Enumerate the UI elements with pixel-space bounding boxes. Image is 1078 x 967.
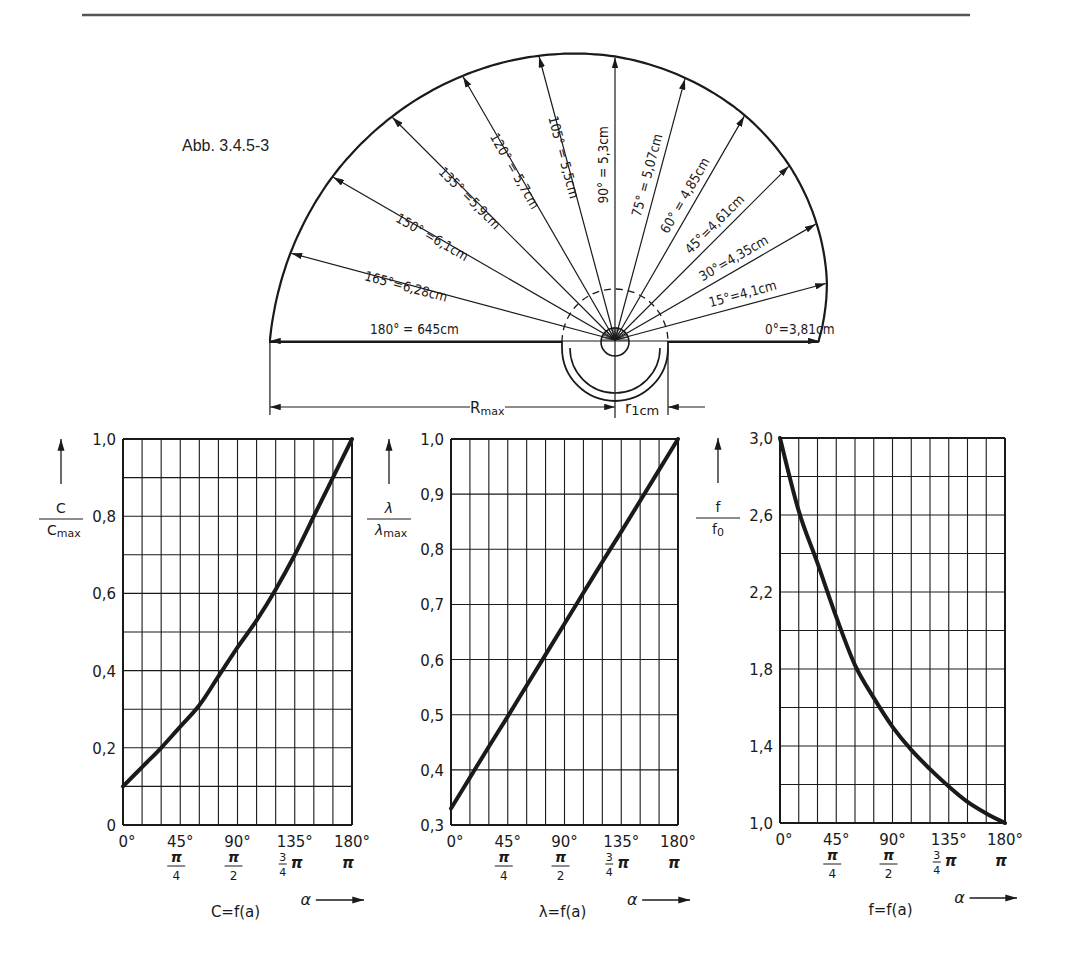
y-tick-label: 1,8 [749, 661, 773, 679]
y-tick-label: 0 [106, 817, 116, 835]
y-tick-label: 0,2 [92, 740, 116, 758]
svg-text:3: 3 [933, 849, 940, 862]
ray-label-135: 135° =5,9cm [436, 163, 505, 232]
y-axis-label-denominator: λmax [374, 522, 408, 540]
svg-text:3: 3 [606, 851, 613, 864]
chart-function-label: λ=f(a) [539, 903, 587, 921]
y-tick-label: 0,5 [420, 707, 444, 725]
ray-label-15: 15°=4,1cm [707, 277, 778, 310]
r1-dimension-label: r1cm [625, 399, 659, 418]
ray-label-75: 75° = 5,07cm [628, 132, 665, 218]
variable-capacitor-rotor-plate-diagram: 0°=3,81cm15°=4,1cm30°=4,35cm45°=4,61cm60… [270, 54, 835, 418]
x-axis-label-alpha: α [954, 888, 965, 907]
x-tick-label-rad: π [945, 852, 957, 870]
chart-function-label: C=f(a) [211, 903, 260, 921]
y-tick-label: 0,4 [420, 762, 444, 780]
svg-text:2: 2 [885, 867, 893, 881]
x-tick-label-deg: 0° [446, 833, 463, 851]
x-tick-label-deg: 0° [775, 831, 792, 849]
y-axis-label-denominator: Cmax [47, 522, 81, 540]
y-tick-label: 0,8 [420, 541, 444, 559]
x-tick-label-rad: π [668, 854, 680, 872]
y-axis-label-denominator: f0 [712, 521, 724, 539]
y-tick-label: 0,4 [92, 663, 116, 681]
ray-label-120: 120° = 5,7cm [487, 130, 543, 212]
x-axis-label-alpha: α [301, 890, 312, 909]
y-axis-label-numerator: λ [384, 500, 393, 516]
y-tick-label: 1,0 [420, 431, 444, 449]
chart-frequency-vs-angle: 1,01,41,82,22,63,00°45°90°135°180°π4π234… [696, 430, 1023, 919]
y-tick-label: 3,0 [749, 430, 773, 448]
svg-text:4: 4 [606, 866, 613, 879]
svg-text:4: 4 [828, 867, 836, 881]
y-tick-label: 1,0 [92, 431, 116, 449]
y-tick-label: 2,2 [749, 584, 773, 602]
figure-caption: Abb. 3.4.5-3 [182, 137, 269, 155]
x-tick-label-deg: 180° [987, 831, 1023, 849]
ray-label-180: 180° = 645cm [370, 321, 459, 337]
x-tick-label-rad: π [827, 847, 839, 863]
x-tick-label-deg: 180° [660, 833, 696, 851]
x-tick-label-rad: π [995, 852, 1007, 870]
x-tick-label-rad: π [342, 854, 354, 872]
svg-text:4: 4 [500, 869, 508, 883]
y-tick-label: 0,7 [420, 596, 444, 614]
ray-label-105: 105° = 5,5cm [545, 114, 582, 200]
y-tick-label: 0,3 [420, 817, 444, 835]
y-tick-label: 0,8 [92, 508, 116, 526]
ray-label-150: 150° =6,1cm [393, 210, 471, 264]
x-tick-label-rad: π [617, 854, 629, 872]
x-axis-label-alpha: α [627, 890, 638, 909]
svg-text:4: 4 [279, 866, 286, 879]
x-tick-label-rad: π [228, 849, 240, 865]
y-axis-label-numerator: f [716, 499, 722, 515]
x-tick-label-deg: 180° [334, 833, 370, 851]
x-tick-label-deg: 0° [118, 833, 135, 851]
x-tick-label-deg: 135° [603, 833, 639, 851]
y-tick-label: 1,0 [749, 815, 773, 833]
x-tick-label-rad: π [498, 849, 510, 865]
x-tick-label-rad: π [555, 849, 567, 865]
ray-label-165: 165°=6,28cm [363, 267, 449, 304]
rmax-dimension-label: Rmax [470, 399, 505, 418]
chart-wavelength-vs-angle: 0,30,40,50,60,70,80,91,00°45°90°135°180°… [367, 431, 696, 921]
svg-text:3: 3 [279, 851, 286, 864]
x-tick-label-rad: π [883, 847, 895, 863]
chart-function-label: f=f(a) [868, 901, 912, 919]
y-axis-label-numerator: C [56, 500, 66, 516]
y-tick-label: 2,6 [749, 507, 773, 525]
ray-label-0: 0°=3,81cm [765, 321, 835, 337]
x-tick-label-deg: 135° [277, 833, 313, 851]
y-tick-label: 0,6 [420, 652, 444, 670]
y-tick-label: 0,9 [420, 486, 444, 504]
plate-bottom-edge-with-shaft-notch [270, 340, 819, 401]
svg-text:4: 4 [172, 869, 180, 883]
x-tick-label-deg: 135° [931, 831, 967, 849]
y-tick-label: 0,6 [92, 585, 116, 603]
figure-canvas: 0°=3,81cm15°=4,1cm30°=4,35cm45°=4,61cm60… [0, 0, 1078, 967]
svg-text:4: 4 [933, 864, 940, 877]
svg-text:2: 2 [230, 869, 238, 883]
y-tick-label: 1,4 [749, 738, 773, 756]
x-tick-label-rad: π [171, 849, 183, 865]
chart-capacitance-vs-angle: 00,20,40,60,81,00°45°90°135°180°π4π234ππ… [39, 431, 370, 921]
ray-label-90: 90° = 5,3cm [595, 126, 611, 203]
x-tick-label-rad: π [291, 854, 303, 872]
svg-text:2: 2 [557, 869, 565, 883]
